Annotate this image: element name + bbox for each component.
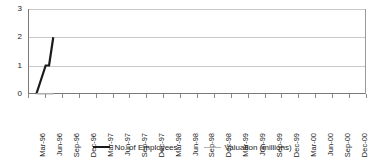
x-axis-tick	[265, 94, 266, 98]
y-axis-tick-label: 1	[18, 62, 22, 70]
y-axis-tick-labels: 0123	[0, 0, 26, 100]
x-axis-tick	[28, 94, 29, 98]
x-axis-tick	[180, 94, 181, 98]
y-axis-tick-label: 0	[18, 90, 22, 98]
series-layer	[28, 9, 365, 94]
x-axis-tick	[45, 94, 46, 98]
series-line	[36, 37, 53, 93]
x-axis-tick	[349, 94, 350, 98]
employees-line-swatch	[93, 146, 110, 148]
legend-item-employees[interactable]: No. of Employees	[93, 143, 177, 152]
x-axis-tick	[231, 94, 232, 98]
legend-item-valuation[interactable]: Valuation (millions)	[204, 143, 292, 152]
x-axis-tick	[298, 94, 299, 98]
x-axis-tick	[146, 94, 147, 98]
x-axis-tick	[332, 94, 333, 98]
x-axis-tick	[79, 94, 80, 98]
y-axis-tick-label: 3	[18, 5, 22, 13]
legend-label-valuation: Valuation (millions)	[225, 143, 292, 152]
x-axis-tick-labels: Mar-96Jun-96Sep-96Dec-96Mar-97Jun-97Sep-…	[28, 99, 366, 135]
x-axis-tick	[315, 94, 316, 98]
valuation-line-swatch	[204, 147, 221, 148]
chart-legend: No. of Employees Valuation (millions)	[0, 140, 385, 154]
x-axis-tick	[129, 94, 130, 98]
x-axis-tick	[96, 94, 97, 98]
x-axis-tick	[281, 94, 282, 98]
x-axis-tick-marks	[28, 94, 366, 98]
x-axis-tick	[163, 94, 164, 98]
x-axis-tick	[197, 94, 198, 98]
x-axis-tick	[366, 94, 367, 98]
x-axis-tick	[113, 94, 114, 98]
line-chart: 0123 Mar-96Jun-96Sep-96Dec-96Mar-97Jun-9…	[0, 0, 385, 159]
y-axis-tick-label: 2	[18, 33, 22, 41]
x-axis-tick	[248, 94, 249, 98]
legend-label-employees: No. of Employees	[114, 143, 177, 152]
x-axis-tick	[214, 94, 215, 98]
plot-area	[28, 9, 366, 94]
x-axis-tick	[62, 94, 63, 98]
